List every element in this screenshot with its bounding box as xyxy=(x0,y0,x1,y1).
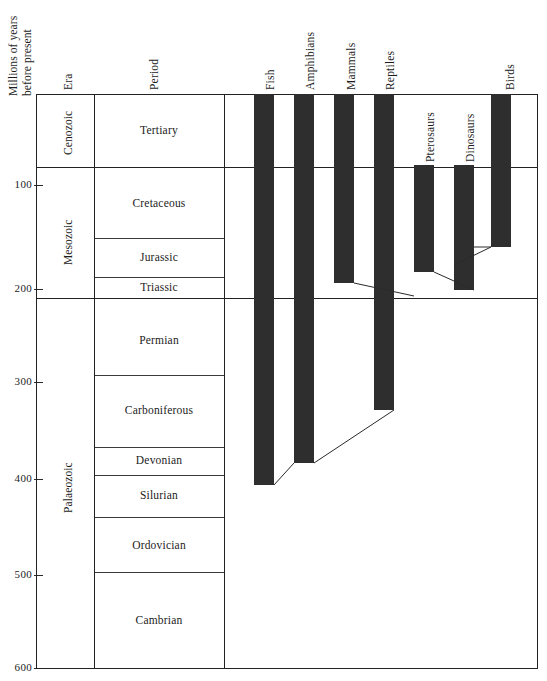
ancestry-connector-lines xyxy=(0,0,547,681)
geological-timescale-chart: Millions of years before present 100 200… xyxy=(0,0,547,681)
